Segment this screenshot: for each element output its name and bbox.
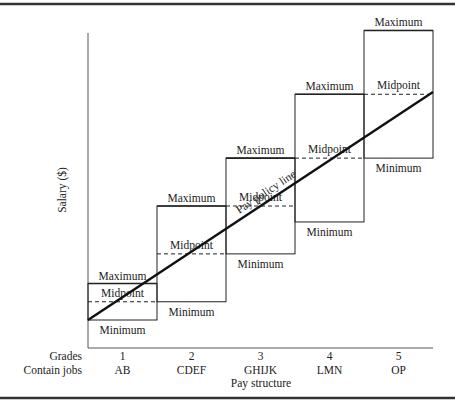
grade-jobs: OP [391,364,406,376]
pay-policy-line [88,92,433,320]
jobs-row-label: Contain jobs [24,364,83,377]
grade-ranges: MaximumMidpointMinimumMaximumMidpointMin… [88,16,433,336]
maximum-label: Maximum [306,80,354,92]
maximum-label: Maximum [168,192,216,204]
minimum-label: Minimum [375,162,421,174]
grade-labels: 1AB2CDEF3GHIJK4LMN5OP [115,350,406,376]
grade-number: 1 [120,350,126,362]
grade-jobs: GHIJK [244,364,278,376]
grade-range-2: MaximumMidpointMinimum [157,192,226,318]
y-axis-label: Salary ($) [56,167,69,213]
grade-jobs: AB [115,364,131,376]
minimum-label: Minimum [99,324,145,336]
minimum-label: Minimum [237,258,283,270]
pay-structure-diagram: Salary ($) MaximumMidpointMinimumMaximum… [0,0,455,406]
x-axis-caption: Pay structure [231,377,291,390]
midpoint-label: Midpoint [377,79,421,92]
grade-range-5: MaximumMidpointMinimum [364,16,433,174]
grade-number: 4 [327,350,333,362]
pay-policy-line-group: Pay policy line [88,92,433,320]
minimum-label: Minimum [306,226,352,238]
grade-number: 2 [189,350,195,362]
grades-row-label: Grades [49,350,82,362]
maximum-label: Maximum [99,270,147,282]
minimum-label: Minimum [168,306,214,318]
grade-range-1: MaximumMidpointMinimum [88,270,157,336]
grade-number: 3 [258,350,264,362]
grade-jobs: LMN [317,364,343,376]
maximum-label: Maximum [237,144,285,156]
maximum-label: Maximum [375,16,423,28]
grade-jobs: CDEF [177,364,206,376]
grade-number: 5 [396,350,402,362]
